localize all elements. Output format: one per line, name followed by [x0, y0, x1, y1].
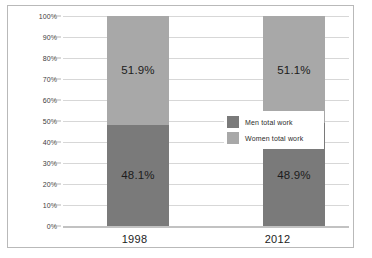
- bar-segment-value-label: 51.1%: [277, 64, 311, 76]
- y-axis-tick-mark: [55, 226, 61, 227]
- bar-segment-women-2012[interactable]: 51.1%: [263, 16, 325, 123]
- bar-segment-men-1998[interactable]: 48.1%: [107, 125, 169, 226]
- y-axis-tick-mark: [55, 205, 61, 206]
- y-axis: 100% 90% 80% 70% 60% 50% 40% 30% 20% 10%…: [8, 16, 57, 226]
- x-axis-category-2012: 2012: [206, 228, 349, 249]
- y-axis-tick-mark: [55, 121, 61, 122]
- y-axis-tick-label: 40%: [13, 139, 57, 146]
- y-axis-tick-label: 70%: [13, 76, 57, 83]
- legend-item-men[interactable]: Men total work: [227, 114, 321, 130]
- legend-item-label: Men total work: [245, 119, 293, 126]
- x-axis-category-1998: 1998: [63, 228, 206, 249]
- y-axis-tick-mark: [55, 58, 61, 59]
- y-axis-tick-label: 0%: [13, 223, 57, 230]
- stacked-bar-1998[interactable]: 51.9% 48.1%: [107, 16, 169, 226]
- y-axis-tick-mark: [55, 184, 61, 185]
- y-axis-tick-mark: [55, 16, 61, 17]
- y-axis-tick-label: 30%: [13, 160, 57, 167]
- bar-segment-women-1998[interactable]: 51.9%: [107, 16, 169, 125]
- chart-figure-frame: 100% 90% 80% 70% 60% 50% 40% 30% 20% 10%…: [7, 5, 354, 248]
- y-axis-tick-mark: [55, 79, 61, 80]
- y-axis-tick-label: 100%: [13, 13, 57, 20]
- bar-segment-value-label: 51.9%: [121, 64, 155, 76]
- y-axis-tick-label: 60%: [13, 97, 57, 104]
- chart-legend: Men total work Women total work: [224, 111, 324, 149]
- x-axis-category-label: 2012: [265, 233, 291, 245]
- bar-group-1998: 51.9% 48.1%: [107, 16, 169, 226]
- y-axis-tick-label: 10%: [13, 202, 57, 209]
- plot-area: 51.9% 48.1% 51.1% 48.9%: [63, 16, 349, 226]
- stacked-bar-chart: 100% 90% 80% 70% 60% 50% 40% 30% 20% 10%…: [8, 6, 353, 247]
- y-axis-tick-mark: [55, 163, 61, 164]
- bar-segment-value-label: 48.9%: [277, 169, 311, 181]
- y-axis-tick-mark: [55, 37, 61, 38]
- y-axis-tick-mark: [55, 100, 61, 101]
- legend-swatch-icon: [227, 116, 239, 128]
- y-axis-tick-mark: [55, 142, 61, 143]
- y-axis-tick-label: 20%: [13, 181, 57, 188]
- y-axis-tick-label: 50%: [13, 118, 57, 125]
- x-axis-category-label: 1998: [122, 233, 148, 245]
- bar-segment-value-label: 48.1%: [121, 169, 155, 181]
- y-axis-tick-label: 80%: [13, 55, 57, 62]
- x-axis: 1998 2012: [63, 227, 349, 249]
- legend-item-label: Women total work: [245, 135, 303, 142]
- legend-item-women[interactable]: Women total work: [227, 130, 321, 146]
- y-axis-tick-label: 90%: [13, 34, 57, 41]
- legend-swatch-icon: [227, 132, 239, 144]
